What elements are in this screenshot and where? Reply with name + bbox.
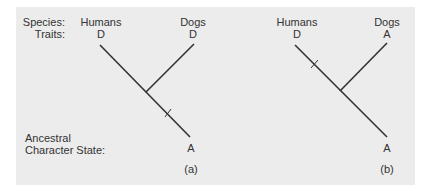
tree-a-trait-humans: D (97, 28, 105, 40)
tree-b-species-dogs: Dogs (374, 16, 400, 28)
ancestral-label-2: Character State: (25, 144, 105, 156)
tree-b-trait-dogs: A (383, 28, 390, 40)
tree-b-caption: (b) (380, 163, 393, 175)
traits-label: Traits: (20, 28, 65, 40)
tree-a-species-humans: Humans (81, 16, 122, 28)
tree-a-caption: (a) (184, 163, 197, 175)
tree-b-species-humans: Humans (277, 16, 318, 28)
tree-a-species-dogs: Dogs (180, 16, 206, 28)
tree-b-dogs-branch (340, 43, 387, 91)
species-label: Species: (20, 16, 65, 28)
tree-b-ancestral-state: A (383, 142, 390, 154)
ancestral-label-1: Ancestral (25, 132, 71, 144)
tree-a-trait-dogs: D (189, 28, 197, 40)
tree-a-dogs-branch (146, 44, 194, 92)
tree-b-trait-humans: D (293, 28, 301, 40)
tree-a-humans-branch (100, 45, 190, 137)
tree-a-ancestral-state: A (187, 142, 194, 154)
